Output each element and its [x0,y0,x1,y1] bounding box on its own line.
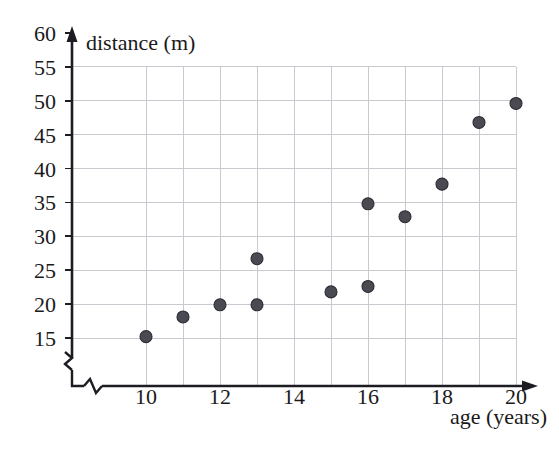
x-axis-tick-label: 14 [283,384,305,409]
y-axis-tick-label: 35 [34,190,56,215]
y-axis-tick-label: 55 [34,55,56,80]
x-axis-title: age (years) [450,404,547,429]
data-point [251,299,263,311]
data-point [362,198,374,210]
data-point [140,331,152,343]
x-axis-tick-label: 12 [209,384,231,409]
data-point [251,253,263,265]
data-point [362,280,374,292]
y-axis-tick-label: 50 [34,89,56,114]
y-axis-tick-label: 40 [34,157,56,182]
y-axis-arrowhead [67,26,78,42]
y-axis-tick-label: 15 [34,326,56,351]
y-axis-tick-label: 30 [34,224,56,249]
scatter-chart-figure: 15202530354045505560 101214161820 distan… [0,0,559,456]
data-point [473,116,485,128]
x-axis-tick-label: 10 [135,384,157,409]
y-axis-tick-labels: 15202530354045505560 [34,21,56,351]
y-axis-tick-label: 60 [34,21,56,46]
data-point [214,299,226,311]
x-axis-break-icon [84,379,102,393]
data-point [436,178,448,190]
y-axis-title: distance (m) [86,30,195,55]
x-axis-tick-label: 16 [357,384,379,409]
data-point [399,211,411,223]
y-axis-foot [72,370,84,386]
data-point [325,286,337,298]
y-axis-tick-label: 25 [34,258,56,283]
y-axis [65,26,84,386]
data-point [177,311,189,323]
y-axis-tick-label: 20 [34,292,56,317]
y-axis-tick-label: 45 [34,123,56,148]
data-point [510,97,522,109]
plot-canvas: 15202530354045505560 101214161820 distan… [0,0,559,456]
